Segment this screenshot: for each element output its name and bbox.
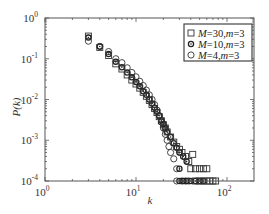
x-tick-label: 100 bbox=[35, 184, 50, 198]
legend-entry: M=30,m=3 bbox=[197, 28, 245, 39]
y-axis-label: P(k) bbox=[10, 97, 23, 117]
y-tick-label: 10-2 bbox=[21, 92, 38, 106]
chart: 10010110210010-110-210-310-4 P(k) k M=30… bbox=[0, 0, 269, 214]
y-tick-label: 10-3 bbox=[21, 132, 38, 146]
y-tick-label: 100 bbox=[23, 10, 38, 24]
x-tick-label: 102 bbox=[217, 184, 232, 198]
legend: M=30,m=3M=10,m=3M=4,m=3 bbox=[184, 24, 252, 61]
y-tick-label: 10-4 bbox=[21, 173, 38, 187]
y-tick-label: 10-1 bbox=[21, 51, 38, 65]
legend-entry: M=4,m=3 bbox=[197, 50, 239, 61]
series-circle bbox=[85, 38, 192, 184]
x-tick-label: 101 bbox=[126, 184, 141, 198]
x-axis-label: k bbox=[148, 194, 154, 206]
legend-entry: M=10,m=3 bbox=[197, 39, 245, 50]
